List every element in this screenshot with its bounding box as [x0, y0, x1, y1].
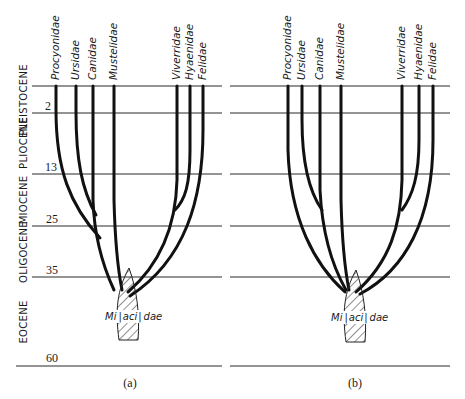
- epoch-pliocene: PLIOCENE: [18, 117, 29, 169]
- panel-label-a: (a): [123, 376, 136, 390]
- taxon-hyaenidae-a: Hyaenidae: [183, 24, 195, 80]
- age-35: 35: [46, 263, 58, 277]
- lineages-panel-a: [56, 86, 203, 296]
- panel-label-b: (b): [348, 376, 362, 390]
- lineage-hyaenidae-b: [402, 86, 419, 210]
- taxa-labels-panel-b: Procyonidae Ursidae Canidae Mustelidae V…: [281, 15, 438, 80]
- taxon-viverridae-a: Viverridae: [170, 26, 182, 80]
- phylogeny-figure: PLEISTOCENE PLIOCENE MIOCENE OLIGOCENE E…: [0, 0, 465, 399]
- taxon-ursidae-b: Ursidae: [295, 40, 307, 80]
- epoch-miocene: MIOCENE: [18, 176, 29, 225]
- age-13: 13: [45, 160, 57, 174]
- taxon-canidae-a: Canidae: [86, 37, 98, 80]
- epoch-labels: PLEISTOCENE PLIOCENE MIOCENE OLIGOCENE E…: [18, 64, 29, 343]
- taxon-mustelidae-a: Mustelidae: [107, 23, 119, 80]
- age-2: 2: [45, 99, 51, 113]
- taxon-procyonidae-a: Procyonidae: [49, 15, 61, 80]
- lineage-felidae-b: [360, 86, 433, 294]
- lineage-felidae-a: [130, 86, 203, 296]
- taxon-procyonidae-b: Procyonidae: [281, 15, 293, 80]
- lineages-panel-b: [288, 86, 433, 294]
- lineage-mustelidae-a: [114, 86, 122, 290]
- taxon-ursidae-a: Ursidae: [69, 40, 81, 80]
- age-60: 60: [46, 351, 58, 365]
- lineage-canidae-a: [93, 86, 114, 290]
- lineage-viverridae-b: [356, 86, 402, 292]
- taxon-canidae-b: Canidae: [313, 37, 325, 80]
- taxon-hyaenidae-b: Hyaenidae: [412, 24, 424, 80]
- taxa-labels-panel-a: Procyonidae Ursidae Canidae Mustelidae V…: [49, 15, 208, 80]
- lineage-mustelidae-b: [341, 86, 349, 290]
- lineage-viverridae-a: [128, 86, 177, 292]
- taxon-mustelidae-b: Mustelidae: [334, 23, 346, 80]
- miacidae-label-b: Mi|aci|dae: [331, 312, 388, 324]
- taxon-felidae-a: Felidae: [196, 42, 208, 80]
- miacidae-label-a: Mi|aci|dae: [105, 311, 162, 323]
- epoch-eocene: EOCENE: [18, 300, 29, 343]
- age-25: 25: [46, 212, 58, 226]
- taxon-viverridae-b: Viverridae: [395, 26, 407, 80]
- epoch-oligocene: OLIGOCENE: [18, 221, 29, 283]
- lineage-procyonidae-b: [288, 86, 345, 292]
- taxon-felidae-b: Felidae: [426, 42, 438, 80]
